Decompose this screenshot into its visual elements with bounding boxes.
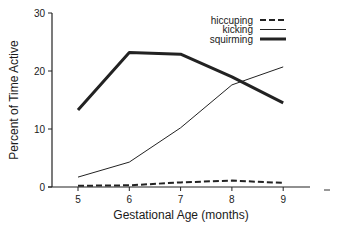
x-axis-title: Gestational Age (months) — [113, 208, 248, 222]
legend-label-squirming: squirming — [210, 34, 253, 45]
axes: 010203056789 — [34, 8, 310, 206]
x-tick-label: 8 — [229, 194, 235, 205]
x-tick-label: 6 — [127, 194, 133, 205]
y-tick-label: 20 — [34, 66, 46, 77]
x-tick-label: 5 — [75, 194, 81, 205]
series-line-kicking — [78, 67, 283, 177]
line-chart: 010203056789 hiccupingkickingsquirming G… — [0, 0, 337, 235]
data-lines — [78, 52, 283, 185]
y-tick-label: 0 — [39, 182, 45, 193]
y-axis-title: Percent of Time Active — [7, 40, 21, 160]
legend: hiccupingkickingsquirming — [210, 15, 286, 45]
x-tick-label: 9 — [280, 194, 286, 205]
series-line-squirming — [78, 52, 283, 110]
series-line-hiccuping — [78, 181, 283, 186]
y-tick-label: 10 — [34, 124, 46, 135]
x-tick-label: 7 — [178, 194, 184, 205]
y-tick-label: 30 — [34, 8, 46, 19]
